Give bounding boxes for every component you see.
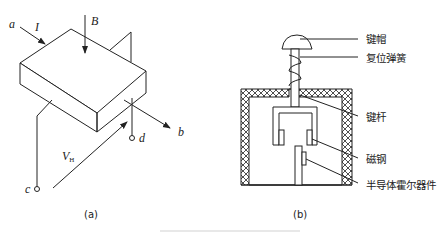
label-hall-voltage: VH — [62, 149, 74, 164]
lead-c — [37, 100, 52, 187]
key-stem — [291, 49, 299, 107]
hall-element-diagram — [20, 15, 170, 192]
label-hall-voltage-sub: H — [69, 156, 74, 164]
magnet-right — [307, 130, 312, 145]
current-arrow — [20, 27, 45, 44]
hall-keyswitch-diagram — [241, 35, 358, 185]
label-d: d — [139, 131, 146, 145]
callout-stem: 键杆 — [366, 111, 387, 123]
key-cap — [282, 35, 312, 49]
hall-sensor-chip — [302, 152, 306, 165]
terminal-d — [130, 136, 135, 141]
hall-sensor-post — [295, 146, 302, 185]
callout-hall-sensor: 半导体霍尔器件 — [366, 179, 436, 191]
figure-canvas: a I B b d c VH (a) 键帽 复位弹簧 键杆 磁钢 半导体霍尔器件… — [0, 0, 439, 234]
caption-b: (b) — [293, 209, 307, 220]
slab-top-face — [20, 29, 146, 113]
magnet-left — [279, 130, 284, 145]
label-current: I — [34, 20, 40, 34]
faint-figure-caption — [160, 230, 300, 232]
label-field: B — [91, 14, 99, 28]
output-arrow-b — [124, 100, 170, 128]
callout-keycap: 键帽 — [366, 33, 386, 45]
label-c: c — [25, 182, 31, 196]
label-b: b — [178, 125, 184, 139]
caption-a: (a) — [84, 209, 98, 220]
callout-spring: 复位弹簧 — [366, 52, 406, 64]
label-a: a — [9, 17, 15, 31]
callout-magnet: 磁钢 — [366, 153, 386, 165]
terminal-c — [35, 187, 40, 192]
